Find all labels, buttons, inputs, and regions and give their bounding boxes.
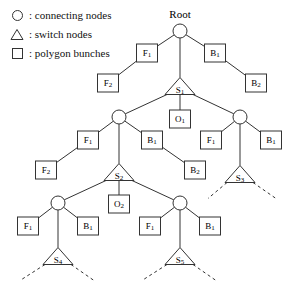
edge-b1b-b2b [163, 147, 185, 162]
edge-s1-c2r [193, 95, 234, 114]
square-icon [8, 45, 26, 61]
edge-f1b-f2b [57, 148, 78, 163]
node-triangle-s1[interactable] [165, 78, 195, 95]
root-caption: Root [169, 8, 190, 20]
node-circle-root[interactable] [173, 24, 187, 38]
edge-c3l-b1d [64, 207, 78, 218]
legend: : connecting nodes : switch nodes : poly… [8, 6, 158, 63]
edge-f1a-f2a [119, 61, 137, 75]
legend-label-polygon-bunches: : polygon bunches [29, 47, 110, 59]
edge-c2r-b1c [246, 121, 261, 132]
edge-c2l-f1b [99, 121, 114, 132]
edge-b1a-b2a [226, 61, 246, 76]
edge-root-f1a [158, 35, 175, 46]
node-square-b1d[interactable] [78, 217, 99, 235]
triangle-icon [8, 26, 26, 42]
edge-root-b1a [186, 35, 205, 47]
node-triangle-s3[interactable] [225, 166, 255, 183]
node-circle-c2l[interactable] [112, 110, 126, 124]
edge-s2-c3l [64, 181, 106, 200]
dashed-stub-s3-1 [253, 183, 276, 199]
node-square-f1b[interactable] [78, 131, 99, 149]
node-square-f1e[interactable] [140, 217, 161, 235]
node-square-b1e[interactable] [200, 217, 221, 235]
edge-c2l-b1b [125, 121, 142, 133]
node-square-b2a[interactable] [246, 74, 267, 92]
node-triangle-s5[interactable] [165, 248, 195, 265]
node-triangle-s4[interactable] [43, 248, 73, 265]
edge-s2-c3r [132, 181, 174, 200]
diagram-canvas: : connecting nodes : switch nodes : poly… [0, 0, 293, 287]
node-square-o2[interactable] [109, 195, 130, 213]
node-circle-c3r[interactable] [173, 196, 187, 210]
dashed-stub-s4-3 [71, 265, 94, 281]
legend-label-switch-nodes: : switch nodes [29, 28, 92, 40]
node-square-b2b[interactable] [185, 161, 206, 179]
node-square-f2a[interactable] [98, 74, 119, 92]
edge-c3l-f1d [39, 207, 53, 218]
node-circle-c3l[interactable] [51, 196, 65, 210]
node-square-b1b[interactable] [142, 131, 163, 149]
edge-s1-c2l [125, 95, 167, 114]
legend-item-connecting-nodes: : connecting nodes [8, 6, 158, 24]
legend-item-switch-nodes: : switch nodes [8, 25, 158, 43]
edge-c3r-f1e [161, 207, 175, 218]
node-square-b1c[interactable] [261, 131, 282, 149]
legend-label-connecting-nodes: : connecting nodes [29, 9, 112, 21]
node-triangle-s2[interactable] [104, 164, 134, 181]
node-square-f1c[interactable] [201, 131, 222, 149]
node-square-f1d[interactable] [18, 217, 39, 235]
node-square-o1[interactable] [170, 110, 191, 128]
node-circle-c2r[interactable] [233, 110, 247, 124]
node-square-f2b[interactable] [36, 161, 57, 179]
edge-c2r-f1c [222, 121, 235, 131]
dashed-stub-s4-2 [20, 265, 45, 281]
edge-c3r-b1e [186, 207, 200, 218]
dashed-stub-s5-5 [193, 265, 216, 281]
dashed-stub-s3-0 [208, 183, 227, 199]
circle-icon [8, 7, 26, 23]
node-square-b1a[interactable] [205, 44, 226, 62]
dashed-stub-s5-4 [142, 265, 167, 281]
legend-item-polygon-bunches: : polygon bunches [8, 44, 158, 62]
